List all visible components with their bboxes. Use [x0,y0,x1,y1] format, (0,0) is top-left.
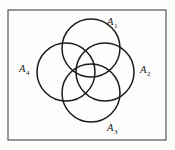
set-label-a3: A3 [107,123,117,134]
set-label-a4-subscript: 4 [26,69,30,77]
set-circle-a2 [76,43,134,101]
set-circle-a1 [62,19,120,77]
set-label-a4-base: A [19,63,26,74]
set-label-a1-subscript: 1 [114,22,118,30]
set-label-a3-subscript: 3 [114,128,118,136]
set-label-a2-subscript: 2 [147,70,151,78]
set-label-a2-base: A [140,64,147,75]
set-label-a3-base: A [107,122,114,133]
set-label-a1: A1 [107,17,117,28]
set-label-a2: A2 [140,65,150,76]
set-label-a4: A4 [19,64,29,75]
set-circle-a4 [37,43,95,101]
venn-diagram-figure: A1 A2 A3 A4 [0,0,175,150]
set-circle-a3 [62,64,120,122]
set-label-a1-base: A [107,16,114,27]
